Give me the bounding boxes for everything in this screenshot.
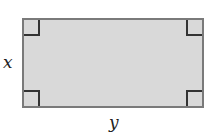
right-angle-marker-bottom-right xyxy=(186,90,202,106)
height-label: x xyxy=(3,52,13,72)
right-angle-marker-top-right xyxy=(186,20,202,36)
right-angle-marker-bottom-left xyxy=(24,90,40,106)
rectangle xyxy=(22,18,204,108)
width-label: y xyxy=(109,112,119,132)
right-angle-marker-top-left xyxy=(24,20,40,36)
